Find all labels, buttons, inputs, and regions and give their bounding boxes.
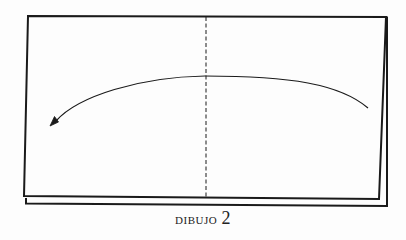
folding-diagram (0, 0, 406, 240)
paper-front-sheet (24, 16, 386, 199)
caption-word: Dibujo (175, 211, 217, 227)
figure-caption: Dibujo 2 (0, 208, 406, 229)
caption-number: 2 (221, 208, 231, 228)
